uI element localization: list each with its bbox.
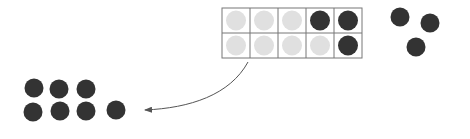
counter	[77, 102, 96, 121]
empty-counter	[226, 11, 246, 31]
counter	[24, 103, 43, 122]
empty-counter	[254, 11, 274, 31]
counter	[421, 14, 440, 33]
loose-counters	[391, 8, 440, 57]
arrow	[145, 62, 248, 110]
empty-counter	[282, 36, 302, 56]
filled-counter	[338, 36, 358, 56]
filled-counter	[338, 11, 358, 31]
counter	[407, 38, 426, 57]
filled-counter	[310, 11, 330, 31]
ten-frame	[222, 8, 362, 58]
counter	[25, 79, 44, 98]
diagram-canvas	[0, 0, 470, 139]
counter	[50, 80, 69, 99]
counter	[77, 80, 96, 99]
empty-counter	[226, 36, 246, 56]
empty-counter	[254, 36, 274, 56]
counter	[107, 101, 126, 120]
result-counter-group	[24, 79, 126, 122]
counter	[51, 102, 70, 121]
empty-counter	[310, 36, 330, 56]
empty-counter	[282, 11, 302, 31]
counter	[391, 8, 410, 27]
